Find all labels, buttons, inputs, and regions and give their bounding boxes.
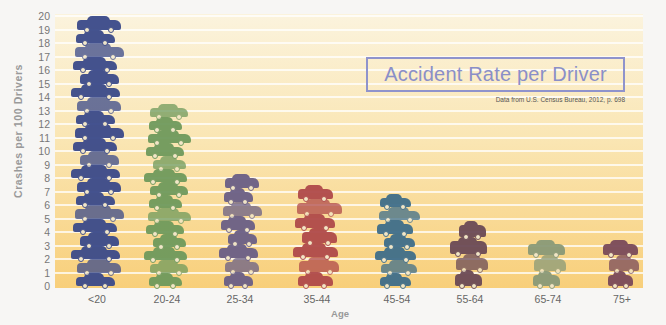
wheel-icon (108, 189, 114, 195)
wheel-icon (178, 218, 184, 224)
car-icon (80, 236, 119, 246)
car-icon (144, 251, 187, 260)
wheel-icon (537, 283, 543, 289)
gridline (55, 15, 643, 17)
y-tick-label: 4 (30, 226, 50, 238)
gridline (55, 204, 643, 206)
car-icon (80, 155, 119, 165)
y-tick-label: 14 (30, 91, 50, 103)
chart-title: Accident Rate per Driver (366, 57, 625, 92)
car-icon (77, 263, 121, 273)
x-tick-label: 55-64 (440, 293, 500, 305)
wheel-icon (106, 256, 112, 262)
wheel-icon (80, 229, 86, 235)
car-icon (80, 74, 119, 84)
wheel-icon (539, 268, 545, 274)
wheel-icon (156, 270, 162, 276)
wheel-icon (242, 283, 248, 289)
wheel-icon (242, 199, 248, 205)
wheel-icon (174, 257, 180, 263)
car-icon (219, 248, 258, 258)
car-icon (380, 198, 411, 207)
y-tick-label: 10 (30, 145, 50, 157)
x-tick-label: 20-24 (137, 293, 197, 305)
gridline (55, 150, 643, 152)
wheel-icon (82, 121, 88, 127)
wheel-icon (104, 148, 110, 154)
wheel-icon (106, 175, 112, 181)
car-icon (221, 220, 255, 230)
wheel-icon (154, 127, 160, 133)
wheel-icon (623, 283, 629, 289)
wheel-icon (325, 240, 331, 246)
car-icon (76, 34, 115, 44)
car-icon (225, 178, 259, 188)
wheel-icon (477, 267, 483, 273)
wheel-icon (228, 283, 234, 289)
car-icon (295, 218, 335, 228)
wheel-icon (104, 229, 110, 235)
wheel-icon (176, 270, 182, 276)
wheel-icon (80, 148, 86, 154)
wheel-icon (86, 243, 92, 249)
wheel-icon (106, 81, 112, 87)
wheel-icon (384, 283, 390, 289)
source-note: Data from U.S. Census Bureau, 2012, p. 6… (400, 96, 625, 103)
car-icon (528, 244, 565, 255)
car-icon (71, 169, 120, 179)
wheel-icon (555, 268, 561, 274)
car-icon (533, 275, 560, 286)
y-tick-label: 2 (30, 253, 50, 265)
car-icon (150, 264, 188, 273)
x-tick-label: 35-44 (287, 293, 347, 305)
car-icon (148, 134, 191, 143)
gridline (55, 110, 643, 112)
wheel-icon (82, 40, 88, 46)
wheel-icon (84, 27, 90, 33)
car-icon (146, 147, 184, 156)
car-icon (225, 262, 259, 272)
wheel-icon (152, 231, 158, 237)
y-axis-label: Crashes per 100 Drivers (12, 64, 24, 198)
car-icon (297, 203, 342, 213)
wheel-icon (321, 283, 327, 289)
x-tick-label: <20 (67, 293, 127, 305)
wheel-icon (300, 254, 306, 260)
wheel-icon (154, 205, 160, 211)
car-icon (224, 192, 253, 202)
car-icon (144, 173, 187, 182)
x-axis-label: Age (320, 308, 360, 319)
car-icon (77, 20, 121, 30)
car-icon (73, 142, 117, 152)
wheel-icon (323, 225, 329, 231)
y-tick-label: 11 (30, 132, 50, 144)
wheel-icon (549, 283, 555, 289)
wheel-icon (82, 283, 88, 289)
wheel-icon (303, 283, 309, 289)
y-tick-label: 20 (30, 10, 50, 22)
wheel-icon (84, 270, 90, 276)
y-tick-label: 17 (30, 51, 50, 63)
car-icon (223, 206, 262, 216)
car-icon (375, 251, 416, 260)
car-icon (298, 276, 333, 286)
gridline (55, 123, 643, 125)
car-icon (75, 128, 124, 138)
gridline (55, 137, 643, 139)
car-icon (73, 61, 117, 71)
wheel-icon (400, 283, 406, 289)
car-icon (455, 274, 482, 286)
wheel-icon (174, 179, 180, 185)
car-icon (224, 276, 253, 286)
wheel-icon (229, 213, 235, 219)
x-tick-label: 25-34 (210, 293, 270, 305)
car-icon (150, 108, 188, 117)
car-icon (71, 250, 120, 260)
car-icon (75, 47, 124, 57)
car-icon (75, 209, 124, 219)
car-icon (298, 189, 333, 199)
car-icon (450, 241, 487, 253)
wheel-icon (176, 114, 182, 120)
wheel-icon (104, 67, 110, 73)
car-icon (149, 277, 182, 286)
